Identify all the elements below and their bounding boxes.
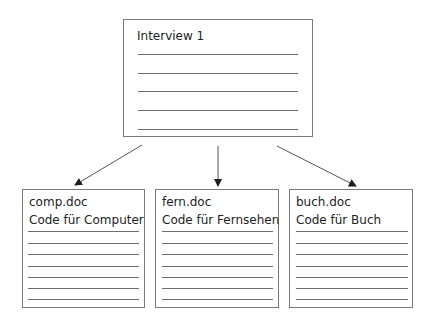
text-line	[296, 243, 408, 244]
target-code: Code für Buch	[296, 213, 381, 227]
text-line	[28, 231, 139, 232]
text-line	[162, 243, 273, 244]
text-line	[162, 299, 273, 300]
text-line	[28, 243, 139, 244]
text-line	[162, 231, 273, 232]
text-line	[28, 266, 139, 267]
text-line	[296, 277, 408, 278]
text-line	[296, 288, 408, 289]
target-document-comp: comp.doc Code für Computer	[22, 189, 145, 308]
text-line	[28, 277, 139, 278]
text-line	[28, 288, 139, 289]
target-code: Code für Computer	[29, 213, 144, 227]
text-line	[138, 91, 298, 92]
text-line	[296, 299, 408, 300]
text-line	[162, 277, 273, 278]
text-line	[138, 129, 298, 130]
arrow-to-buch	[277, 146, 356, 186]
arrow-to-comp	[75, 145, 142, 185]
target-code: Code für Fernsehen	[162, 213, 279, 227]
text-line	[162, 254, 273, 255]
text-line	[296, 231, 408, 232]
text-line	[296, 266, 408, 267]
target-document-fern: fern.doc Code für Fernsehen	[155, 189, 279, 308]
target-filename: fern.doc	[162, 195, 211, 209]
target-document-buch: buch.doc Code für Buch	[289, 189, 413, 308]
text-line	[138, 54, 298, 55]
text-line	[138, 110, 298, 111]
text-line	[138, 73, 298, 74]
target-filename: comp.doc	[29, 195, 88, 209]
target-filename: buch.doc	[296, 195, 351, 209]
text-line	[296, 254, 408, 255]
text-line	[28, 299, 139, 300]
source-document-interview-1: Interview 1	[123, 19, 313, 137]
text-line	[162, 288, 273, 289]
source-title: Interview 1	[137, 29, 204, 43]
text-line	[162, 266, 273, 267]
text-line	[28, 254, 139, 255]
